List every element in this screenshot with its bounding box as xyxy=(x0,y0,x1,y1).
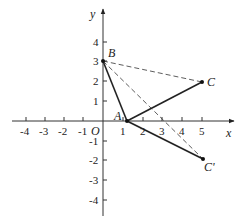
point-A xyxy=(125,119,129,123)
svg-text:-2: -2 xyxy=(89,154,98,166)
segment-ACprime xyxy=(127,121,203,159)
svg-text:5: 5 xyxy=(199,125,205,137)
svg-text:-3: -3 xyxy=(89,174,99,186)
svg-text:-1: -1 xyxy=(78,125,87,137)
label-B: B xyxy=(108,46,116,60)
segment-AC xyxy=(127,82,202,121)
point-C xyxy=(200,80,204,84)
svg-text:3: 3 xyxy=(159,125,165,137)
svg-text:2: 2 xyxy=(140,125,146,137)
svg-text:1: 1 xyxy=(93,95,99,107)
svg-text:1: 1 xyxy=(120,125,126,137)
svg-text:-1: -1 xyxy=(89,135,98,147)
svg-text:-2: -2 xyxy=(58,125,67,137)
svg-text:-3: -3 xyxy=(39,125,49,137)
x-axis-label: x xyxy=(225,126,232,140)
label-A: A xyxy=(113,109,122,123)
y-axis-label: y xyxy=(89,7,96,21)
svg-text:3: 3 xyxy=(93,55,99,67)
point-B xyxy=(101,59,105,63)
label-Cprime: C' xyxy=(204,160,215,174)
svg-text:2: 2 xyxy=(93,75,99,87)
svg-text:-4: -4 xyxy=(20,125,30,137)
coordinate-diagram: x y O -4 -3 -2 -1 1 2 3 4 5 4 3 2 xyxy=(0,0,241,224)
svg-text:4: 4 xyxy=(179,125,185,137)
x-tick-labels: -4 -3 -2 -1 1 2 3 4 5 xyxy=(20,125,205,137)
svg-text:-4: -4 xyxy=(89,194,99,206)
svg-text:4: 4 xyxy=(93,36,99,48)
segment-BC-dashed xyxy=(103,61,202,82)
label-C: C xyxy=(207,75,216,89)
